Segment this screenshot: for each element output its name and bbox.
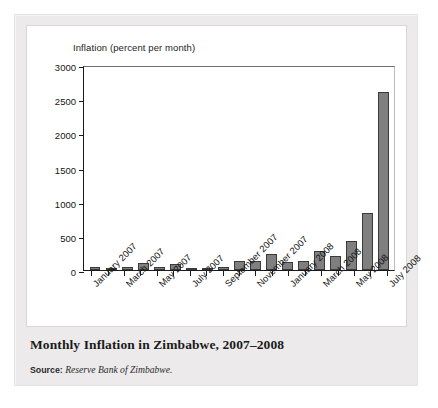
figure-caption: Monthly Inflation in Zimbabwe, 2007–2008…	[26, 337, 407, 375]
x-axis-tick	[190, 271, 191, 276]
y-axis-tick	[79, 204, 84, 205]
bar-slot	[312, 67, 328, 270]
bar-slot	[215, 67, 231, 270]
chart-panel: Inflation (percent per month) 0500100015…	[26, 25, 407, 327]
bar-slot	[247, 67, 263, 270]
bar-slot	[87, 67, 103, 270]
plot-area: 050010001500200025003000	[83, 66, 395, 271]
x-axis-tick	[305, 271, 306, 276]
bar	[154, 267, 165, 270]
x-axis-tick	[206, 271, 207, 276]
bar-slot	[280, 67, 296, 270]
x-axis-tick	[124, 271, 125, 276]
x-axis-tick	[288, 271, 289, 276]
x-axis-tick	[338, 271, 339, 276]
bar	[378, 92, 389, 270]
y-axis-tick-label: 2000	[55, 130, 76, 141]
y-axis-tick	[79, 135, 84, 136]
y-axis-tick-label: 3000	[55, 62, 76, 73]
bar	[218, 267, 229, 270]
bar-slot	[231, 67, 247, 270]
bar-slot	[360, 67, 376, 270]
source-line: Source: Reserve Bank of Zimbabwe.	[30, 364, 403, 375]
bar-slot	[199, 67, 215, 270]
figure-container: Inflation (percent per month) 0500100015…	[14, 14, 418, 386]
x-axis-tick	[387, 271, 388, 276]
y-axis-tick	[79, 238, 84, 239]
bar-slot	[151, 67, 167, 270]
bar	[90, 267, 101, 270]
bar-slot	[183, 67, 199, 270]
y-axis-tick-label: 2500	[55, 96, 76, 107]
bar	[362, 213, 373, 270]
x-axis-tick	[91, 271, 92, 276]
bar-slot	[344, 67, 360, 270]
x-axis-tick	[370, 271, 371, 276]
x-axis-tick	[173, 271, 174, 276]
x-axis-tick	[239, 271, 240, 276]
x-axis-tick	[255, 271, 256, 276]
bar	[122, 267, 133, 270]
x-axis-tick	[223, 271, 224, 276]
y-axis-tick-label: 1500	[55, 164, 76, 175]
figure-title: Monthly Inflation in Zimbabwe, 2007–2008	[30, 337, 403, 353]
bar-series	[84, 67, 394, 270]
y-axis-title: Inflation (percent per month)	[73, 42, 195, 53]
bar-slot	[376, 67, 392, 270]
x-axis-tick	[354, 271, 355, 276]
y-axis-tick	[79, 101, 84, 102]
y-axis-tick-label: 500	[60, 232, 76, 243]
y-axis-tick-label: 0	[71, 267, 76, 278]
y-axis-tick	[79, 67, 84, 68]
x-axis-tick	[321, 271, 322, 276]
bar-slot	[135, 67, 151, 270]
x-axis-tick	[140, 271, 141, 276]
bar-slot	[328, 67, 344, 270]
x-axis-tick	[108, 271, 109, 276]
source-label: Source:	[30, 365, 63, 375]
source-text: Reserve Bank of Zimbabwe.	[65, 364, 172, 375]
x-axis-tick	[272, 271, 273, 276]
plot-wrapper: Inflation (percent per month) 0500100015…	[27, 26, 406, 326]
y-axis-tick	[79, 170, 84, 171]
y-axis-tick-label: 1000	[55, 198, 76, 209]
bar-slot	[167, 67, 183, 270]
bar	[186, 268, 197, 270]
y-axis-tick	[79, 272, 84, 273]
x-axis-tick	[157, 271, 158, 276]
bar-slot	[119, 67, 135, 270]
bar-slot	[103, 67, 119, 270]
